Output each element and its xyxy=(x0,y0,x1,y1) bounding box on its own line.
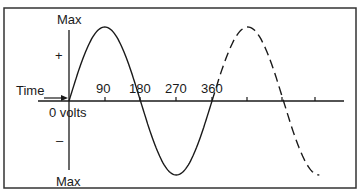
sine-wave-diagram: Max + Time 0 volts – Max 90 180 270 360 xyxy=(0,0,360,192)
time-label: Time xyxy=(16,84,44,97)
tick-label-360: 360 xyxy=(201,82,223,95)
tick-label-180: 180 xyxy=(129,82,151,95)
max-negative-label: Max xyxy=(56,175,81,188)
tick-label-90: 90 xyxy=(96,82,110,95)
arrow-head-icon xyxy=(61,95,68,101)
zero-volts-label: 0 volts xyxy=(49,106,87,119)
diagram-canvas xyxy=(0,0,360,192)
max-positive-label: Max xyxy=(57,13,82,26)
negative-sign-label: – xyxy=(56,134,63,147)
tick-label-270: 270 xyxy=(165,82,187,95)
positive-sign-label: + xyxy=(55,49,63,62)
